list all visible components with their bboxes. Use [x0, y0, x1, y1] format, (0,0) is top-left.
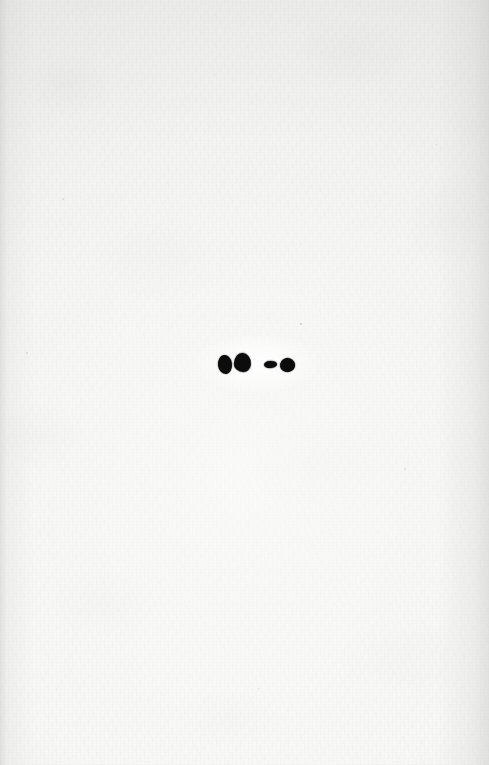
dust-fleck-left-mid — [26, 352, 28, 354]
scanned-page — [0, 0, 489, 765]
dust-fleck-right-upper — [436, 144, 437, 145]
paper-speck-layer — [0, 0, 489, 765]
dust-fleck-right-mid — [404, 468, 406, 470]
dust-fleck-left-upper — [62, 198, 64, 200]
dust-fleck-lower-mid — [258, 688, 259, 689]
dust-fleck-top-mid — [214, 74, 215, 75]
dust-fleck-lower-left — [118, 610, 119, 611]
ink-speck-upper-right — [300, 323, 302, 325]
